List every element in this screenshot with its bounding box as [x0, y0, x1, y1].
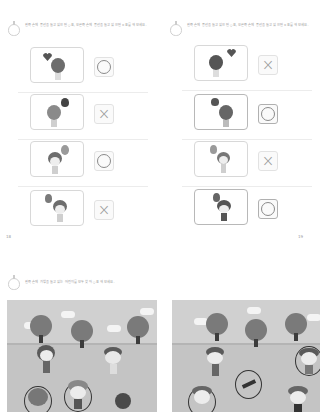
- exercise-row: ×: [194, 141, 320, 181]
- page-number: 19: [298, 234, 303, 239]
- row-divider: [18, 186, 148, 187]
- page-number: 18: [6, 234, 11, 239]
- picture-box: [30, 141, 84, 177]
- answer-circle-mark[interactable]: [94, 151, 114, 171]
- picture-box: [194, 189, 248, 225]
- exercise-row: ×: [30, 94, 160, 134]
- picture-box: [30, 47, 84, 83]
- apple-icon: [170, 24, 182, 36]
- row-divider: [182, 186, 312, 187]
- exercise-row: ×: [30, 190, 160, 230]
- left-page: 왼쪽 손에 풍선을 들고 있으면 ○표, 오른쪽 손에 풍선을 들고 있으면 ×…: [0, 0, 160, 250]
- child-body: [221, 213, 227, 221]
- picture-box: [194, 45, 248, 81]
- instruction-text: 왼쪽 손에 풍선을 들고 있으면 ○표, 오른쪽 손에 풍선을 들고 있으면 ×…: [187, 23, 309, 28]
- tree: [206, 313, 228, 343]
- cloud: [61, 311, 75, 318]
- child-head: [219, 105, 233, 120]
- answer-symbol: ×: [98, 203, 111, 218]
- picture-box: [194, 141, 248, 177]
- child-face: [50, 157, 60, 166]
- child-body: [55, 73, 61, 80]
- child-figure: [68, 380, 88, 410]
- picture-box: [30, 190, 84, 226]
- flower-balloon-icon: [211, 98, 219, 106]
- child-body: [213, 70, 219, 77]
- exercise-row: [194, 189, 320, 229]
- child-figure: [206, 347, 226, 379]
- row-divider: [182, 139, 312, 140]
- answer-circle-mark[interactable]: [94, 57, 114, 77]
- child-head: [51, 58, 65, 73]
- answer-symbol: ×: [262, 154, 275, 169]
- answer-x-mark[interactable]: ×: [258, 55, 278, 75]
- tree: [30, 315, 52, 345]
- tree: [71, 320, 93, 350]
- child-head: [47, 105, 61, 120]
- apple-icon: [8, 278, 20, 290]
- child-face: [55, 205, 65, 214]
- instruction-text: 왼쪽 손에 풍선을 들고 있으면 ○표, 오른쪽 손에 풍선을 들고 있으면 ×…: [25, 23, 147, 28]
- instruction: 왼쪽 손에 풍선을 들고 있으면 ○표, 오른쪽 손에 풍선을 들고 있으면 ×…: [8, 23, 158, 36]
- child-figure: [115, 393, 135, 412]
- child-figure: [192, 386, 212, 412]
- cloud: [140, 308, 154, 315]
- tree: [127, 316, 149, 346]
- child-head: [209, 55, 223, 70]
- heart-balloon-icon: [43, 53, 52, 61]
- park-scene-left: [7, 300, 157, 412]
- child-body: [52, 166, 58, 174]
- right-page: 왼쪽 손에 풍선을 들고 있으면 ○표, 오른쪽 손에 풍선을 들고 있으면 ×…: [160, 0, 320, 250]
- picture-box: [194, 94, 248, 130]
- child-body: [223, 120, 229, 127]
- child-face: [219, 205, 229, 213]
- balloon-icon: [210, 145, 217, 154]
- instruction-text: 왼쪽 손에 가방을 들고 있는 어린이를 모두 찾아 ○표 해 보세요.: [25, 280, 115, 285]
- answer-symbol: ×: [98, 107, 111, 122]
- flower-balloon-icon: [61, 98, 69, 107]
- child-figure: [104, 347, 124, 377]
- child-body: [51, 120, 57, 127]
- child-figure: [28, 388, 48, 412]
- answer-symbol: ×: [262, 58, 275, 73]
- exercise-row: ×: [194, 45, 320, 85]
- exercise-row: [30, 141, 160, 181]
- answer-circle-mark[interactable]: [258, 199, 278, 219]
- picture-box: [30, 94, 84, 130]
- child-body: [57, 214, 63, 222]
- heart-balloon-icon: [227, 49, 236, 57]
- answer-x-mark[interactable]: ×: [258, 151, 278, 171]
- cloud: [107, 325, 121, 332]
- park-scene-right: [172, 300, 320, 412]
- child-face: [219, 156, 228, 164]
- balloon-icon: [45, 194, 52, 203]
- cloud: [247, 307, 261, 314]
- answer-circle-mark[interactable]: [258, 104, 278, 124]
- row-divider: [18, 139, 148, 140]
- answer-x-mark[interactable]: ×: [94, 200, 114, 220]
- bottom-instruction: 왼쪽 손에 가방을 들고 있는 어린이를 모두 찾아 ○표 해 보세요.: [8, 277, 308, 290]
- exercise-row: [194, 94, 320, 134]
- child-figure: [242, 380, 258, 390]
- answer-x-mark[interactable]: ×: [94, 104, 114, 124]
- child-figure: [299, 348, 319, 376]
- child-body: [221, 164, 226, 173]
- exercise-row: [30, 47, 160, 87]
- balloon-icon: [61, 145, 69, 155]
- row-divider: [182, 90, 312, 91]
- row-divider: [18, 92, 148, 93]
- cloud: [307, 314, 320, 321]
- child-figure: [288, 386, 308, 412]
- instruction: 왼쪽 손에 풍선을 들고 있으면 ○표, 오른쪽 손에 풍선을 들고 있으면 ×…: [170, 23, 320, 36]
- child-figure: [37, 345, 57, 377]
- tree: [285, 313, 307, 343]
- tree: [245, 319, 267, 349]
- apple-icon: [8, 24, 20, 36]
